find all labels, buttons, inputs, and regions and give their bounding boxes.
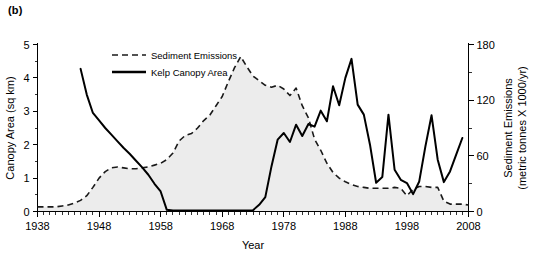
y-left-axis-title: Canopy Area (sq km)	[4, 76, 16, 179]
y-right-tick-label: 180	[477, 39, 495, 51]
y-left-tick-label: 2	[23, 139, 29, 151]
y-left-tick-label: 5	[23, 39, 29, 51]
y-right-tick-label: 0	[477, 206, 483, 218]
y-right-axis-title-line2: (metric tonnes X 1000/yr)	[516, 66, 528, 190]
x-tick-label: 1948	[87, 220, 111, 232]
sediment-area-fill	[38, 57, 469, 212]
x-tick-label: 1978	[272, 220, 296, 232]
legend-label-kelp-canopy-area: Kelp Canopy Area	[151, 67, 228, 78]
x-tick-label: 1938	[25, 220, 49, 232]
kelp-sediment-chart: 0123450601201801938194819581968197819881…	[0, 0, 549, 261]
x-tick-label: 2008	[456, 220, 480, 232]
x-tick-label: 1958	[148, 220, 172, 232]
y-right-axis-title-line1: Sediment Emissions	[502, 78, 514, 178]
y-right-tick-label: 60	[477, 150, 489, 162]
x-axis-title: Year	[242, 239, 265, 251]
y-left-tick-label: 0	[23, 206, 29, 218]
x-tick-label: 1988	[333, 220, 357, 232]
x-tick-label: 1968	[210, 220, 234, 232]
y-left-tick-label: 3	[23, 105, 29, 117]
x-tick-label: 1998	[395, 220, 419, 232]
legend-label-sediment-emissions: Sediment Emissions	[151, 50, 237, 61]
panel-label: (b)	[8, 4, 23, 16]
figure-panel-b: (b) 012345060120180193819481958196819781…	[0, 0, 549, 261]
y-right-tick-label: 120	[477, 94, 495, 106]
y-left-tick-label: 1	[23, 172, 29, 184]
y-left-tick-label: 4	[23, 72, 29, 84]
